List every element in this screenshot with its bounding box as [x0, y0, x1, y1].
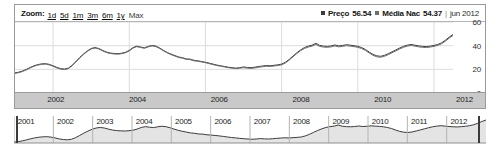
legend-marker-preco-icon [321, 11, 325, 15]
legend-value-preco: 56.54 [352, 9, 371, 18]
range-button-6m[interactable]: 6m [102, 11, 113, 20]
range-button-5d[interactable]: 5d [60, 11, 69, 20]
x-axis-tick-2010: 2010 [374, 95, 391, 104]
series-line-preço [15, 35, 453, 73]
plot-wrapper: 0204060 200220042006200820102012 [15, 22, 485, 108]
y-axis-tick-60: 60 [473, 18, 482, 27]
range-button-max[interactable]: Max [129, 11, 144, 20]
navigator-label-2005: 2005 [175, 117, 192, 126]
navigator-label-2011: 2011 [411, 117, 427, 126]
legend-separator: | [445, 9, 447, 18]
x-axis-tick-2002: 2002 [47, 95, 64, 104]
navigator-label-2006: 2006 [214, 117, 231, 126]
navigator[interactable]: 2001200220032004200520062007200820092010… [14, 116, 486, 149]
navigator-label-2012: 2012 [450, 117, 467, 126]
range-button-1m[interactable]: 1m [72, 11, 83, 20]
range-button-1d[interactable]: 1d [47, 11, 56, 20]
navigator-handle-right[interactable] [478, 116, 480, 143]
navigator-label-2002: 2002 [57, 117, 74, 126]
plot-svg [15, 22, 453, 93]
legend-item-preco[interactable]: Preço 56.54 [321, 9, 371, 18]
y-axis-tick-20: 20 [473, 65, 482, 74]
legend-marker-media-nac-icon [375, 11, 379, 15]
legend-label-media-nac: Média Nac [382, 9, 420, 18]
stock-chart-widget: Zoom: 1d5d1m3m6m1yMax Preço 56.54 Média … [0, 0, 501, 155]
series-paths [15, 35, 453, 74]
x-axis: 200220042006200820102012 [15, 92, 485, 108]
y-axis-tick-40: 40 [473, 41, 482, 50]
navigator-label-2004: 2004 [136, 117, 153, 126]
navigator-handle-left[interactable] [16, 116, 18, 143]
y-axis: 0204060 [453, 22, 485, 93]
navigator-label-2007: 2007 [254, 117, 271, 126]
legend-label-preco: Preço [328, 9, 349, 18]
legend-item-media-nac[interactable]: Média Nac 54.37 [375, 9, 442, 18]
zoom-label: Zoom: [21, 9, 44, 18]
range-button-1y[interactable]: 1y [117, 11, 125, 20]
chart-toolbar: Zoom: 1d5d1m3m6m1yMax Preço 56.54 Média … [15, 5, 485, 22]
range-button-3m[interactable]: 3m [87, 11, 98, 20]
chart-legend: Preço 56.54 Média Nac 54.37 | jun 2012 [317, 9, 479, 18]
legend-date: jun 2012 [450, 9, 479, 18]
x-axis-tick-2012: 2012 [456, 95, 473, 104]
plot-area[interactable] [15, 22, 453, 93]
range-selector-group: 1d5d1m3m6m1yMax [47, 4, 147, 22]
x-axis-tick-2006: 2006 [211, 95, 228, 104]
navigator-label-2010: 2010 [372, 117, 389, 126]
navigator-label-2008: 2008 [293, 117, 310, 126]
main-chart-frame: Zoom: 1d5d1m3m6m1yMax Preço 56.54 Média … [14, 4, 486, 109]
x-axis-tick-2004: 2004 [129, 95, 146, 104]
navigator-label-2001: 2001 [18, 117, 35, 126]
x-axis-tick-2008: 2008 [293, 95, 310, 104]
legend-value-media-nac: 54.37 [423, 9, 442, 18]
navigator-label-2003: 2003 [96, 117, 113, 126]
navigator-label-2009: 2009 [332, 117, 349, 126]
